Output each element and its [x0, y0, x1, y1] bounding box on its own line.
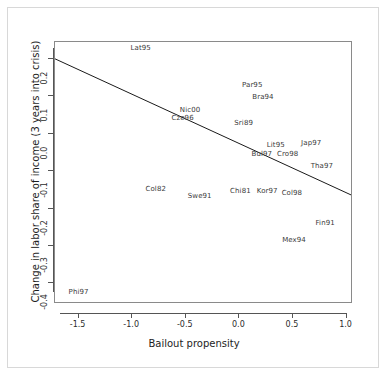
y-axis-tick [48, 133, 53, 134]
x-axis-tick-label: 0.0 [232, 320, 245, 329]
y-axis-tick-label: 0.1 [40, 95, 49, 135]
y-axis-tick-label: 0.0 [40, 133, 49, 173]
x-axis-tick [131, 313, 132, 318]
y-axis-tick-label: 0.2 [40, 58, 49, 98]
y-axis-tick [48, 245, 53, 246]
y-axis-tick-label: -0.3 [40, 245, 49, 285]
data-point-label: Lat95 [131, 44, 151, 52]
y-axis-tick [48, 58, 53, 59]
data-point-label: Phi97 [69, 288, 89, 296]
x-axis-tick [238, 313, 239, 318]
y-axis-tick [48, 282, 53, 283]
y-axis-tick-label: -0.2 [40, 208, 49, 248]
data-point-label: Col98 [282, 189, 303, 197]
y-axis-tick [48, 170, 53, 171]
figure-container: Lat95Par95Bra94Nic00Cze96Sri89Lit95Jap97… [0, 0, 388, 389]
y-axis-tick [48, 95, 53, 96]
data-point-label: Jap97 [301, 139, 321, 147]
data-point-label: Sri89 [234, 119, 253, 127]
data-point-label: Par95 [242, 81, 262, 89]
x-axis: -1.5-1.0-0.50.00.51.0 [54, 313, 352, 314]
data-point-label: Swe91 [188, 192, 212, 200]
regression-line-svg [55, 42, 352, 303]
y-axis-tick-label: -0.1 [40, 170, 49, 210]
x-axis-tick [292, 313, 293, 318]
x-axis-tick-label: -1.5 [70, 320, 86, 329]
x-axis-tick [78, 313, 79, 318]
x-axis-tick-label: 1.0 [339, 320, 352, 329]
x-axis-tick-label: 0.5 [286, 320, 299, 329]
x-axis-line [60, 313, 346, 314]
data-point-label: Cze96 [171, 114, 193, 122]
data-point-label: Chi81 [230, 187, 251, 195]
x-axis-tick-label: -1.0 [123, 320, 139, 329]
x-axis-title: Bailout propensity [0, 338, 388, 349]
x-axis-tick-label: -0.5 [177, 320, 193, 329]
data-point-label: Mex94 [282, 236, 306, 244]
data-point-label: Fin91 [315, 219, 334, 227]
y-axis-tick-label: -0.4 [40, 282, 49, 322]
data-point-label: Bul97 [252, 150, 273, 158]
data-point-label: Col82 [145, 185, 166, 193]
data-point-label: Bra94 [252, 93, 273, 101]
data-point-label: Cro98 [277, 150, 298, 158]
y-axis-tick [48, 208, 53, 209]
x-axis-tick [185, 313, 186, 318]
x-axis-tick [346, 313, 347, 318]
plot-panel: Lat95Par95Bra94Nic00Cze96Sri89Lit95Jap97… [54, 41, 352, 303]
data-point-label: Lit95 [267, 141, 285, 149]
y-axis-title: Change in labor share of income (3 years… [30, 32, 41, 312]
data-point-label: Kor97 [257, 187, 278, 195]
y-axis-line [53, 48, 54, 292]
data-point-label: Tha97 [311, 162, 333, 170]
y-axis: 0.20.10.0-0.1-0.2-0.3-0.4 [53, 41, 54, 303]
